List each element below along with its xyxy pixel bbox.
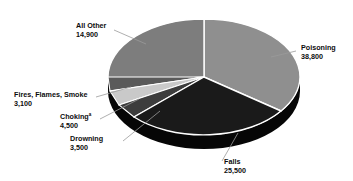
callout-label-poisoning: Poisoning <box>301 43 336 52</box>
callout-fires-flames-smoke: Fires, Flames, Smoke 3,100 <box>14 90 88 108</box>
callout-falls: Falls 25,500 <box>224 157 246 175</box>
callout-label-falls: Falls <box>224 157 240 166</box>
callout-label-all-other: All Other <box>76 21 107 30</box>
pie-top-group <box>108 19 300 135</box>
callout-choking: Chokinga 4,500 <box>60 112 92 130</box>
callout-label-choking-text: Choking <box>60 112 89 121</box>
pie-chart-svg: All Other 14,900 Poisoning 38,800 Fires,… <box>0 0 353 181</box>
callout-value-drowning: 3,500 <box>70 143 88 152</box>
callout-footnote-marker-choking: a <box>89 112 92 117</box>
callout-value-poisoning: 38,800 <box>301 52 323 61</box>
pie-chart-figure: All Other 14,900 Poisoning 38,800 Fires,… <box>0 0 353 181</box>
callout-label-drowning: Drowning <box>70 134 103 143</box>
callout-value-fires-flames-smoke: 3,100 <box>14 99 32 108</box>
callout-label-choking: Chokinga <box>60 112 92 121</box>
callout-value-all-other: 14,900 <box>76 30 98 39</box>
callout-poisoning: Poisoning 38,800 <box>301 43 336 61</box>
callout-drowning: Drowning 3,500 <box>70 134 103 152</box>
callout-label-fires-flames-smoke: Fires, Flames, Smoke <box>14 90 88 99</box>
callout-value-choking: 4,500 <box>60 121 78 130</box>
callout-all-other: All Other 14,900 <box>76 21 107 39</box>
pie-slice-all-other <box>108 19 204 84</box>
callout-value-falls: 25,500 <box>224 166 246 175</box>
